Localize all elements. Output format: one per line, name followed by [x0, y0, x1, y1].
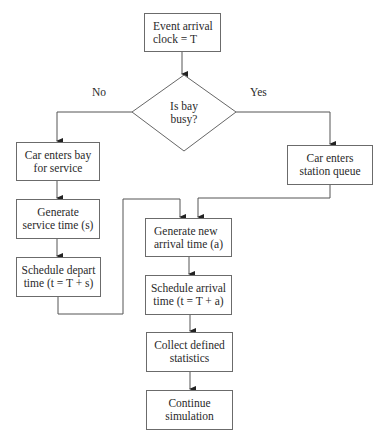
- node-continue-simulation: Continue simulation: [146, 390, 233, 430]
- arrow-queue-to-arrival: [198, 184, 330, 217]
- node-collect-statistics-text: Collect defined statistics: [154, 339, 225, 365]
- node-schedule-arrival: Schedule arrival time (t = T + a): [145, 275, 232, 315]
- node-enter-bay: Car enters bay for service: [16, 142, 100, 181]
- arrow-no-branch: [57, 112, 132, 141]
- node-collect-statistics: Collect defined statistics: [146, 332, 233, 372]
- node-enter-queue: Car enters station queue: [287, 145, 373, 185]
- node-generate-service-text: Generate service time (s): [23, 206, 94, 232]
- node-generate-arrival: Generate new arrival time (a): [145, 218, 232, 257]
- edge-label-no: No: [92, 86, 106, 98]
- edge-label-yes: Yes: [250, 86, 267, 98]
- node-schedule-depart: Schedule depart time (t = T + s): [16, 257, 101, 297]
- node-schedule-arrival-text: Schedule arrival time (t = T + a): [151, 282, 226, 308]
- arrow-yes-branch: [236, 112, 330, 144]
- node-event-arrival: Event arrival clock = T: [144, 13, 221, 52]
- node-enter-queue-text: Car enters station queue: [300, 152, 361, 178]
- decision-text: Is bay busy?: [144, 100, 224, 126]
- node-schedule-depart-text: Schedule depart time (t = T + s): [22, 264, 96, 290]
- node-enter-bay-text: Car enters bay for service: [25, 149, 91, 175]
- node-event-arrival-text: Event arrival clock = T: [153, 20, 213, 46]
- node-generate-service: Generate service time (s): [16, 199, 100, 239]
- node-continue-simulation-text: Continue simulation: [165, 397, 214, 423]
- node-generate-arrival-text: Generate new arrival time (a): [154, 225, 223, 251]
